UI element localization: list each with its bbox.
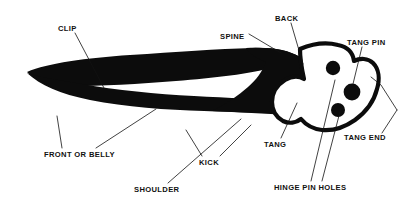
tang-pin-icon	[344, 84, 361, 101]
kick-leader-left	[186, 130, 202, 156]
label-kick: KICK	[199, 158, 219, 167]
label-hinge-pin-holes: HINGE PIN HOLES	[274, 183, 346, 192]
label-front-or-belly: FRONT OR BELLY	[44, 150, 115, 159]
tang-end-leader-line	[382, 110, 397, 133]
diagram-canvas: CLIP SPINE BACK TANG PIN TANG END FRONT …	[0, 0, 410, 205]
label-tang-end: TANG END	[344, 133, 386, 142]
hinge-pin-hole-upper-icon	[326, 61, 340, 75]
label-tang: TANG	[264, 140, 286, 149]
label-tang-pin: TANG PIN	[347, 38, 386, 47]
front-belly-leader-right	[96, 109, 156, 148]
label-back: BACK	[275, 14, 299, 23]
label-spine: SPINE	[220, 32, 245, 41]
kick-leader-right	[220, 125, 251, 156]
shoulder-leader-line	[168, 119, 241, 183]
front-belly-leader-left	[57, 116, 62, 148]
label-clip: CLIP	[58, 24, 77, 33]
knife-anatomy-diagram: CLIP SPINE BACK TANG PIN TANG END FRONT …	[0, 0, 410, 205]
hinge-pin-hole-lower-icon	[331, 103, 345, 117]
label-shoulder: SHOULDER	[134, 185, 180, 194]
